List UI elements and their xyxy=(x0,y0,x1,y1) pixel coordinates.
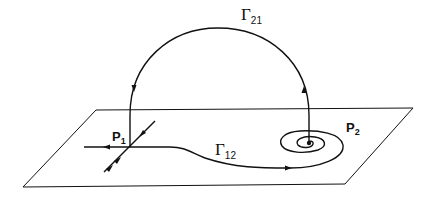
gamma21-label-sub: 21 xyxy=(251,15,262,26)
gamma12-label-main: Γ xyxy=(215,140,225,159)
diagram-svg xyxy=(0,0,436,197)
gamma12-label: Γ12 xyxy=(215,141,236,161)
p1-label-sub: 1 xyxy=(121,136,126,146)
p1-label: P1 xyxy=(112,130,126,146)
gamma21-label: Γ21 xyxy=(241,6,262,26)
gamma12-orbit xyxy=(130,131,343,168)
gamma21-label-main: Γ xyxy=(241,5,251,24)
arrow-right-icon xyxy=(285,166,292,171)
p2-point xyxy=(307,141,311,145)
arrow-left-icon xyxy=(103,145,110,150)
gamma12-label-sub: 12 xyxy=(225,150,236,161)
p2-label: P2 xyxy=(346,121,360,137)
gamma21-orbit xyxy=(130,28,309,147)
heteroclinic-cycle-diagram: P1 P2 Γ21 Γ12 xyxy=(0,0,436,197)
p2-label-sub: 2 xyxy=(355,127,360,137)
p2-label-main: P xyxy=(346,120,355,135)
p1-label-main: P xyxy=(112,129,121,144)
